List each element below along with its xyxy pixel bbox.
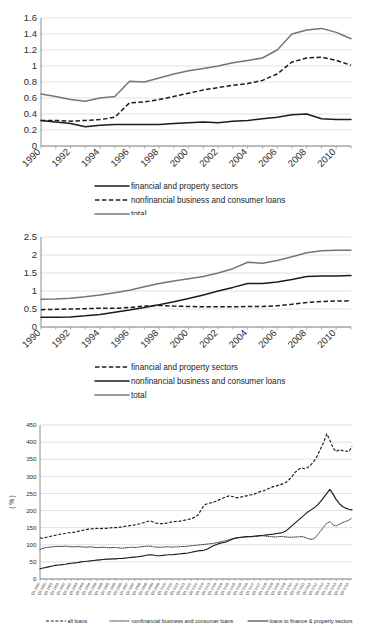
chart-1-container: 00.20.40.60.811.21.41.6 1990199219941996… — [0, 0, 366, 215]
y-tick-label: 0.2 — [24, 124, 37, 135]
x-tick-label: 2010 — [315, 327, 338, 350]
y-tick-label: 50 — [30, 558, 37, 565]
x-tick-label: 2004 — [226, 327, 249, 350]
x-tick-label: 2000 — [167, 146, 190, 169]
chart-3-gridlines — [40, 425, 352, 579]
x-tick-label: 1996 — [108, 146, 131, 169]
legend-label-3: total — [131, 391, 147, 400]
series-line-1 — [40, 434, 352, 538]
figure-page: 00.20.40.60.811.21.41.6 1990199219941996… — [0, 0, 366, 642]
y-tick-label: 2 — [32, 249, 37, 260]
x-tick-label: 1996 — [108, 327, 131, 350]
y-tick-label: 1.6 — [24, 12, 37, 23]
y-tick-label: 100 — [26, 541, 37, 548]
legend-label-2: nonfinancial business and consumer loans — [131, 377, 285, 386]
legend-label-1: all loans — [68, 618, 88, 624]
chart-1-series-lines — [41, 28, 351, 126]
legend-label-1: financial and property sectors — [131, 363, 238, 372]
chart-1-axes — [41, 18, 351, 149]
chart-1-legend: financial and property sectorsnonfinanci… — [95, 182, 285, 215]
legend-label-3: loans to finance & property sectors — [270, 618, 353, 624]
x-tick-label: 2010 — [315, 146, 338, 169]
y-tick-label: 450 — [26, 421, 37, 428]
x-tick-label: 1992 — [49, 146, 72, 169]
y-tick-label: 0.6 — [24, 92, 37, 103]
chart-3-legend: all loansnonfinancial business and consu… — [46, 618, 353, 624]
chart-2-y-tick-labels: 00.511.522.5 — [24, 231, 37, 332]
chart-3-y-tick-labels: 050100150200250300350400450 — [26, 421, 37, 582]
chart-2-gridlines — [41, 237, 351, 327]
y-tick-label: 300 — [26, 473, 37, 480]
y-tick-label: 350 — [26, 455, 37, 462]
chart-3-axes — [40, 425, 352, 581]
chart-2-x-tick-labels: 1990199219941996199820002002200420062008… — [20, 327, 338, 350]
y-tick-label: 1.4 — [24, 28, 37, 39]
chart-2-container: 00.511.522.5 199019921994199619982000200… — [0, 215, 366, 411]
y-tick-label: 2.5 — [24, 231, 37, 242]
chart-2-legend: financial and property sectorsnonfinanci… — [95, 363, 285, 400]
x-tick-label: 1998 — [138, 146, 161, 169]
y-tick-label: 1 — [32, 285, 37, 296]
x-tick-label: 2008 — [285, 327, 308, 350]
x-tick-label: 2002 — [197, 146, 220, 169]
chart-1-y-tick-labels: 00.20.40.60.811.21.41.6 — [24, 12, 37, 151]
series-line-3 — [41, 28, 351, 101]
y-tick-label: 0 — [33, 575, 37, 582]
y-tick-label: 200 — [26, 507, 37, 514]
series-line-1 — [41, 301, 351, 310]
y-tick-label: 0.5 — [24, 303, 37, 314]
chart-2-series-lines — [41, 250, 351, 317]
x-tick-label: 1990 — [20, 327, 43, 350]
chart-2-svg: 00.511.522.5 199019921994199619982000200… — [0, 215, 366, 411]
x-tick-label: 1998 — [138, 327, 161, 350]
y-tick-label: 1 — [32, 60, 37, 71]
series-line-3 — [41, 250, 351, 299]
y-tick-label: 0.4 — [24, 108, 37, 119]
y-tick-label: 1.5 — [24, 267, 37, 278]
chart-3-x-tick-labels: Q1 1990Q3 1990Q1 1991Q3 1991Q1 1992Q3 19… — [31, 582, 350, 596]
chart-3-y-axis-title: ( % ) — [8, 495, 16, 509]
y-tick-label: 1.2 — [24, 44, 37, 55]
y-tick-label: 0.8 — [24, 76, 37, 87]
chart-3-svg: 050100150200250300350400450 ( % ) Q1 199… — [0, 411, 366, 642]
series-line-2 — [41, 57, 351, 121]
legend-label-2: nonfinancial business and consumer loans — [132, 618, 234, 624]
y-axis-title: ( % ) — [8, 495, 16, 509]
series-line-1 — [41, 114, 351, 127]
chart-3-series-lines — [40, 434, 352, 569]
x-tick-label: 2004 — [226, 146, 249, 169]
x-tick-label: 2002 — [197, 327, 220, 350]
x-tick-label: 1992 — [49, 327, 72, 350]
legend-label-1: financial and property sectors — [131, 182, 238, 191]
x-tick-label: 1990 — [20, 146, 43, 169]
x-tick-label: 1994 — [79, 327, 102, 350]
x-tick-label: 2008 — [285, 146, 308, 169]
x-tick-label: 2006 — [256, 327, 279, 350]
chart-1-x-tick-labels: 1990199219941996199820002002200420062008… — [20, 146, 338, 169]
legend-label-2: nonfinancial business and consumer loans — [131, 196, 285, 205]
x-tick-label: 2000 — [167, 327, 190, 350]
x-tick-label: 2006 — [256, 146, 279, 169]
y-tick-label: 250 — [26, 490, 37, 497]
chart-3-container: 050100150200250300350400450 ( % ) Q1 199… — [0, 411, 366, 642]
x-tick-label: 1994 — [79, 146, 102, 169]
y-tick-label: 150 — [26, 524, 37, 531]
y-tick-label: 400 — [26, 438, 37, 445]
chart-1-svg: 00.20.40.60.811.21.41.6 1990199219941996… — [0, 0, 366, 215]
